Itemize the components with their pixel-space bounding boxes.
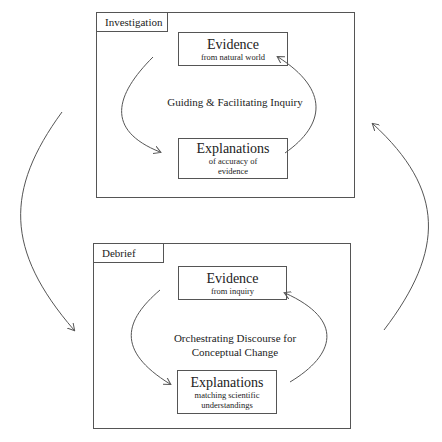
outer-right-arrow	[373, 124, 428, 330]
debrief-caption: Orchestrating Discourse for Conceptual C…	[150, 331, 320, 359]
investigation-explanations-subtitle-1: of accuracy of	[179, 156, 287, 166]
debrief-caption-line-1: Orchestrating Discourse for	[150, 331, 320, 345]
debrief-evidence-subtitle: from inquiry	[179, 286, 286, 296]
investigation-explanations-title: Explanations	[179, 141, 287, 156]
investigation-caption: Guiding & Facilitating Inquiry	[150, 95, 320, 109]
investigation-evidence-box: Evidence from natural world	[178, 32, 288, 66]
investigation-label-text: Investigation	[105, 16, 162, 28]
investigation-evidence-subtitle: from natural world	[179, 52, 287, 62]
debrief-label-text: Debrief	[102, 247, 136, 259]
investigation-evidence-title: Evidence	[179, 37, 287, 52]
debrief-label: Debrief	[93, 243, 164, 263]
investigation-explanations-subtitle-2: evidence	[179, 166, 287, 176]
debrief-caption-line-2: Conceptual Change	[150, 345, 320, 359]
investigation-caption-text: Guiding & Facilitating Inquiry	[167, 96, 302, 108]
outer-left-arrow	[21, 112, 74, 330]
debrief-explanations-subtitle-2: understandings	[178, 400, 276, 410]
debrief-evidence-box: Evidence from inquiry	[178, 266, 287, 300]
investigation-explanations-box: Explanations of accuracy of evidence	[178, 138, 288, 179]
debrief-explanations-subtitle-1: matching scientific	[178, 390, 276, 400]
debrief-evidence-title: Evidence	[179, 271, 286, 286]
debrief-explanations-box: Explanations matching scientific underst…	[177, 370, 277, 414]
investigation-label: Investigation	[96, 12, 168, 32]
debrief-explanations-title: Explanations	[178, 375, 276, 390]
